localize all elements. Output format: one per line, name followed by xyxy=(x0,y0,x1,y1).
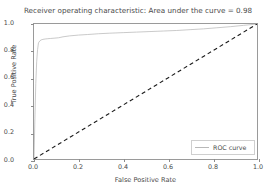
x-tick-mark xyxy=(214,159,215,162)
y-tick-mark xyxy=(31,79,34,80)
y-tick-mark xyxy=(31,134,34,135)
x-tick-label: 0.4 xyxy=(108,164,138,171)
y-tick-mark xyxy=(31,24,34,25)
x-tick-mark xyxy=(79,159,80,162)
y-tick-label: 0.2 xyxy=(0,129,14,136)
x-axis-label: False Positive Rate xyxy=(33,176,258,184)
legend: ROC curve xyxy=(191,140,255,155)
x-tick-mark xyxy=(34,159,35,162)
y-axis-label: True Positive Rate xyxy=(10,29,18,119)
chance-diagonal-line xyxy=(34,24,257,159)
x-tick-label: 0.2 xyxy=(63,164,93,171)
y-tick-label: 0.0 xyxy=(0,157,14,164)
x-tick-label: 1.0 xyxy=(243,164,273,171)
x-tick-label: 0.0 xyxy=(18,164,48,171)
roc-chart-figure: Receiver operating characteristic: Area … xyxy=(0,0,276,194)
x-tick-mark xyxy=(124,159,125,162)
y-tick-mark xyxy=(31,106,34,107)
x-tick-label: 0.8 xyxy=(198,164,228,171)
x-tick-mark xyxy=(169,159,170,162)
legend-label-roc-curve: ROC curve xyxy=(213,144,246,151)
chart-title: Receiver operating characteristic: Area … xyxy=(0,6,276,15)
plot-svg xyxy=(34,24,257,159)
x-tick-label: 0.6 xyxy=(153,164,183,171)
legend-swatch-roc-curve xyxy=(195,147,209,148)
y-tick-mark xyxy=(31,51,34,52)
x-tick-mark xyxy=(259,159,260,162)
y-tick-label: 1.0 xyxy=(0,20,14,27)
